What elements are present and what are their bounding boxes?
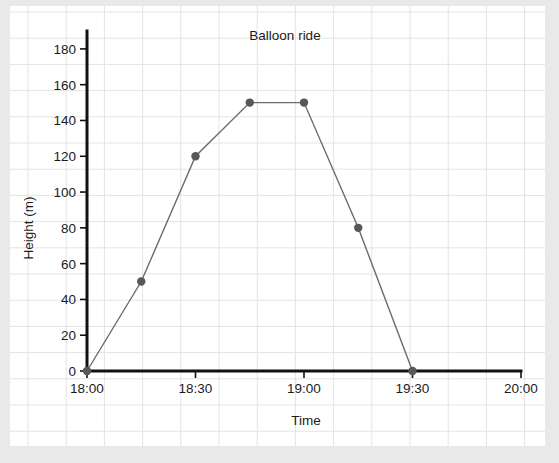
x-tick-label: 19:30 [396, 381, 430, 396]
y-tick-label: 160 [53, 78, 76, 93]
y-tick-label: 40 [61, 292, 76, 307]
y-axis-title: Height (m) [21, 196, 36, 259]
x-axis-title: Time [291, 413, 321, 428]
data-point-marker [137, 277, 145, 285]
x-axis-ticks: 18:0018:3019:0019:3020:00 [70, 371, 538, 396]
y-tick-label: 60 [61, 257, 76, 272]
balloon-ride-chart: Balloon ride Time Height (m) 02040608010… [0, 0, 559, 463]
data-series-group [83, 98, 417, 375]
data-point-marker [83, 367, 91, 375]
x-tick-label: 20:00 [504, 381, 538, 396]
data-point-marker [354, 224, 362, 232]
x-tick-label: 18:00 [70, 381, 104, 396]
x-tick-label: 19:00 [287, 381, 321, 396]
y-tick-label: 180 [53, 42, 76, 57]
screenshot-root: Balloon ride Time Height (m) 02040608010… [0, 0, 559, 463]
y-tick-label: 140 [53, 113, 76, 128]
data-line [87, 103, 413, 371]
y-tick-label: 80 [61, 221, 76, 236]
data-point-marker [300, 98, 308, 106]
y-tick-label: 20 [61, 328, 76, 343]
data-point-marker [408, 367, 416, 375]
y-tick-label: 0 [68, 364, 76, 379]
chart-title: Balloon ride [249, 28, 320, 43]
x-tick-label: 18:30 [179, 381, 213, 396]
y-tick-label: 120 [53, 149, 76, 164]
data-point-marker [191, 152, 199, 160]
y-tick-label: 100 [53, 185, 76, 200]
y-axis-ticks: 020406080100120140160180 [53, 42, 87, 379]
data-point-marker [246, 98, 254, 106]
